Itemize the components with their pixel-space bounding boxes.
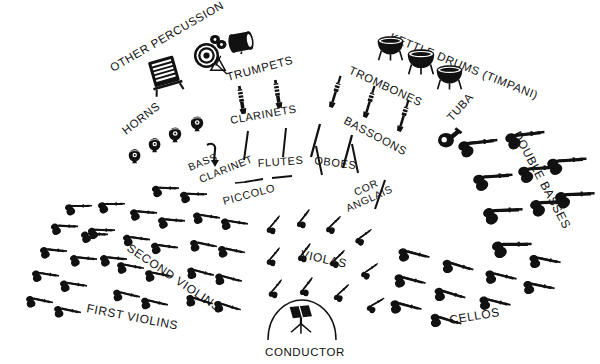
xylophone-icon bbox=[146, 55, 185, 97]
violin-icon bbox=[189, 234, 218, 254]
section-oboes[interactable]: OBOES bbox=[314, 144, 358, 175]
double-bass-icon bbox=[545, 143, 588, 180]
label-tuba: TUBA bbox=[445, 91, 476, 124]
violin-icon bbox=[156, 209, 185, 232]
timpani-icon bbox=[437, 65, 463, 89]
trumpet-icon bbox=[236, 85, 247, 114]
diagram-canvas: OTHER PERCUSSION KETTLE DRUMS (TIMPANI) … bbox=[0, 0, 600, 364]
violin-icon bbox=[140, 293, 169, 312]
cello-icon bbox=[441, 255, 474, 276]
french-horn-icon bbox=[191, 116, 203, 131]
bass-drum-icon bbox=[227, 31, 255, 56]
violin-icon bbox=[220, 212, 249, 233]
trombone-icon bbox=[327, 75, 344, 109]
section-piccolo[interactable]: PICCOLO bbox=[221, 181, 276, 206]
viola-icon bbox=[266, 213, 280, 235]
label-cellos: CELLOS bbox=[448, 305, 501, 327]
section-cor-anglais[interactable]: COR ANGLAIS bbox=[344, 177, 394, 214]
label-piccolo: PICCOLO bbox=[221, 181, 276, 206]
section-other-percussion[interactable]: OTHER PERCUSSION bbox=[108, 0, 255, 97]
cello-icon bbox=[528, 248, 561, 271]
french-horn-icon bbox=[129, 149, 141, 163]
french-horn-icon bbox=[149, 138, 161, 152]
violin-icon bbox=[68, 247, 97, 269]
orchestra-seating-diagram: OTHER PERCUSSION KETTLE DRUMS (TIMPANI) … bbox=[0, 0, 600, 364]
bassoon-icon bbox=[311, 124, 320, 157]
cello-icon bbox=[433, 283, 466, 304]
section-tuba[interactable]: TUBA bbox=[438, 91, 476, 148]
cello-icon bbox=[522, 274, 555, 297]
label-flutes: FLUTES bbox=[257, 154, 304, 169]
flute-icon bbox=[272, 176, 292, 178]
viola-icon bbox=[366, 293, 385, 315]
flute-icon bbox=[245, 179, 263, 182]
double-bass-icon bbox=[481, 193, 524, 229]
cello-icon bbox=[397, 243, 430, 265]
label-clarinets: CLARINETS bbox=[229, 102, 297, 125]
double-bass-icon bbox=[490, 227, 533, 262]
section-trombones[interactable]: TROMBONES bbox=[327, 64, 424, 133]
violin-icon bbox=[192, 206, 221, 227]
viola-icon bbox=[333, 281, 349, 303]
double-bass-icon bbox=[471, 159, 514, 196]
clarinet-icon bbox=[283, 128, 286, 157]
violin-icon bbox=[38, 239, 67, 261]
violin-icon bbox=[128, 201, 157, 224]
section-double-basses[interactable]: DOUBLE BASSES bbox=[456, 116, 596, 262]
gong-icon bbox=[194, 43, 219, 68]
violin-icon bbox=[112, 285, 141, 304]
section-clarinets[interactable]: CLARINETS bbox=[229, 102, 297, 160]
violin-icon bbox=[178, 183, 207, 207]
violin-icon bbox=[25, 290, 54, 310]
violin-icon bbox=[49, 215, 78, 238]
section-bass-clarinet[interactable]: BASS CLARINET bbox=[186, 144, 254, 185]
violin-icon bbox=[31, 264, 60, 285]
timpani-icon bbox=[408, 49, 434, 74]
violin-icon bbox=[150, 177, 179, 201]
violin-icon bbox=[63, 194, 92, 218]
violin-icon bbox=[186, 263, 214, 282]
french-horn-icon bbox=[169, 127, 181, 142]
label-horns: HORNS bbox=[120, 100, 162, 137]
timpani-icon bbox=[378, 36, 404, 60]
cello-icon bbox=[393, 269, 426, 291]
viola-icon bbox=[360, 259, 378, 281]
label-first-violins: FIRST VIOLINS bbox=[85, 301, 179, 332]
viola-icon bbox=[325, 213, 341, 235]
music-stand-icon bbox=[290, 305, 312, 333]
viola-icon bbox=[266, 245, 280, 267]
viola-icon bbox=[354, 225, 372, 247]
violin-icon bbox=[53, 300, 82, 320]
section-violas[interactable]: VIOLAS bbox=[266, 208, 385, 316]
tuba-icon bbox=[438, 127, 462, 147]
section-conductor[interactable]: CONDUCTOR bbox=[265, 300, 345, 358]
cello-icon bbox=[484, 264, 517, 286]
viola-icon bbox=[299, 276, 313, 297]
violin-icon bbox=[96, 192, 125, 216]
violin-icon bbox=[217, 240, 246, 260]
violin-icon bbox=[59, 274, 88, 295]
label-trombones: TROMBONES bbox=[347, 64, 424, 108]
viola-icon bbox=[296, 208, 310, 229]
label-trumpets: TRUMPETS bbox=[225, 54, 294, 83]
violin-icon bbox=[214, 269, 242, 288]
trombone-icon bbox=[361, 85, 378, 119]
label-conductor: CONDUCTOR bbox=[265, 346, 345, 358]
label-violas: VIOLAS bbox=[299, 247, 348, 270]
section-cellos[interactable]: CELLOS bbox=[389, 243, 561, 330]
section-horns[interactable]: HORNS bbox=[120, 100, 203, 163]
cello-icon bbox=[389, 295, 422, 317]
viola-icon bbox=[268, 277, 282, 299]
section-flutes[interactable]: FLUTES bbox=[245, 154, 304, 182]
violin-icon bbox=[150, 236, 179, 258]
double-bass-icon bbox=[456, 124, 499, 162]
piccolo-icon bbox=[235, 182, 246, 183]
